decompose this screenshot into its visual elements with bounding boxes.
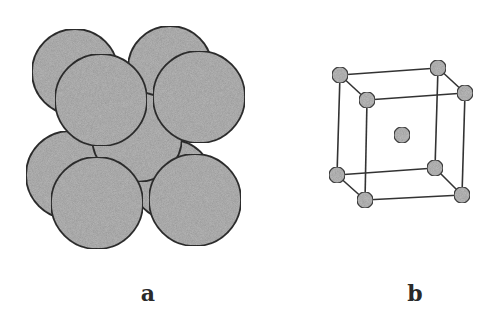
atom-node-btr xyxy=(430,60,446,76)
cube-edge xyxy=(462,93,465,195)
atom-node-bbl xyxy=(329,167,345,183)
atom-node-btl xyxy=(332,67,348,83)
atom-sphere-front-top-right xyxy=(153,51,245,143)
cube-edge xyxy=(337,75,340,175)
ball-and-stick-model xyxy=(329,60,473,208)
cube-edge xyxy=(337,168,435,175)
cube-edge xyxy=(365,100,367,200)
atom-node-bbr xyxy=(427,160,443,176)
atom-nodes xyxy=(329,60,473,208)
cube-edge xyxy=(365,195,462,200)
panel-label-a: a xyxy=(141,280,155,306)
cube-edge xyxy=(340,68,438,75)
atom-sphere-front-top-left xyxy=(55,54,147,146)
atom-node-ftr xyxy=(457,85,473,101)
cube-edge xyxy=(435,68,438,168)
atom-sphere-front-bottom-right xyxy=(149,154,241,246)
atom-node-fbl xyxy=(357,192,373,208)
bcc-figure xyxy=(0,0,494,320)
space-filling-model xyxy=(26,26,245,249)
atom-sphere-front-bottom-left xyxy=(51,157,143,249)
panel-label-b: b xyxy=(407,280,422,306)
atom-node-center xyxy=(394,127,410,143)
cube-edge xyxy=(367,93,465,100)
atom-node-ftl xyxy=(359,92,375,108)
atom-node-fbr xyxy=(454,187,470,203)
